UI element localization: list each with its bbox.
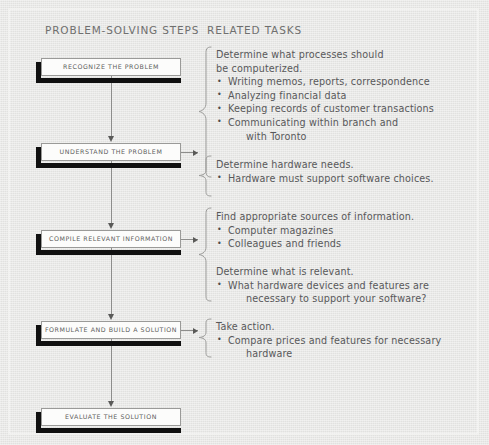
arrowhead-tasks-group-2 [193,237,198,243]
task-item: Communicating within branch andwith Toro… [216,116,478,143]
step-shadow-bottom [36,341,181,346]
step-box-label: COMPILE RELEVANT INFORMATION [49,236,173,242]
column-header-problem-solving-steps: PROBLEM-SOLVING STEPS [45,24,199,36]
task-item: Analyzing financial data [216,89,478,103]
connector-step3-step4 [111,248,112,315]
brace-group-4 [198,318,212,358]
step-box-formulate-and-build-a-solution[interactable]: FORMULATE AND BUILD A SOLUTION [41,321,181,339]
column-header-related-tasks: RELATED TASKS [207,24,302,36]
connector-step1-step2 [111,76,112,137]
step-box-compile-relevant-information[interactable]: COMPILE RELEVANT INFORMATION [41,230,181,248]
task-block-1: Determine what processes should be compu… [216,48,478,143]
task-list: Computer magazines Colleagues and friend… [216,224,478,251]
task-heading: Take action. [216,321,275,332]
task-list: Compare prices and features for necessar… [216,334,478,361]
task-item-continuation: with Toronto [228,130,478,144]
task-heading-wrap: Take action. [216,320,478,334]
step-box-recognize-the-problem[interactable]: RECOGNIZE THE PROBLEM [41,58,181,76]
step-shadow-bottom [36,250,181,255]
task-item: Hardware must support software choices. [216,172,478,186]
brace-group-2 [198,155,212,197]
connector-step4-step5 [111,339,112,402]
task-item-continuation: hardware [228,347,478,361]
diagram-canvas: PROBLEM-SOLVING STEPS RELATED TASKS RECO… [0,0,489,445]
task-item: Compare prices and features for necessar… [216,334,478,361]
step-box-understand-the-problem[interactable]: UNDERSTAND THE PROBLEM [41,143,181,161]
step-box-label: RECOGNIZE THE PROBLEM [63,64,159,70]
arrowhead-step4 [108,314,114,320]
task-item: Colleagues and friends [216,237,478,251]
task-block-4: Determine what is relevant. What hardwar… [216,265,478,306]
arrowhead-step2 [108,136,114,142]
task-block-3: Find appropriate sources of information.… [216,210,478,251]
task-item: Writing memos, reports, correspondence [216,75,478,89]
step-box-evaluate-the-solution[interactable]: EVALUATE THE SOLUTION [41,408,181,426]
step-box-label: EVALUATE THE SOLUTION [65,414,157,420]
task-list: What hardware devices and features arene… [216,279,478,306]
step-box-label: UNDERSTAND THE PROBLEM [60,149,163,155]
step-shadow-bottom [36,428,181,433]
task-heading-wrap: Determine what is relevant. [216,265,478,279]
task-heading: Find appropriate sources of information. [216,211,414,222]
arrowhead-tasks-group-3 [193,328,198,334]
task-item: Keeping records of customer transactions [216,102,478,116]
task-item-continuation: necessary to support your software? [228,292,478,306]
task-heading-wrap: Determine hardware needs. [216,158,478,172]
task-block-5: Take action. Compare prices and features… [216,320,478,361]
task-heading-wrap: Find appropriate sources of information. [216,210,478,224]
arrowhead-step5 [108,401,114,407]
task-heading: Determine what is relevant. [216,266,354,277]
arrowhead-tasks-group-1 [193,150,198,156]
step-shadow-bottom [36,163,181,168]
arrowhead-step3 [108,223,114,229]
task-heading: Determine what processes should be compu… [216,48,478,75]
brace-group-3 [198,207,212,302]
task-heading: Determine hardware needs. [216,159,354,170]
step-box-label: FORMULATE AND BUILD A SOLUTION [45,327,177,333]
task-list: Writing memos, reports, correspondence A… [216,75,478,143]
connector-step2-step3 [111,161,112,224]
task-item: What hardware devices and features arene… [216,279,478,306]
task-list: Hardware must support software choices. [216,172,478,186]
task-item: Computer magazines [216,224,478,238]
task-block-2: Determine hardware needs. Hardware must … [216,158,478,185]
step-shadow-bottom [36,78,181,83]
